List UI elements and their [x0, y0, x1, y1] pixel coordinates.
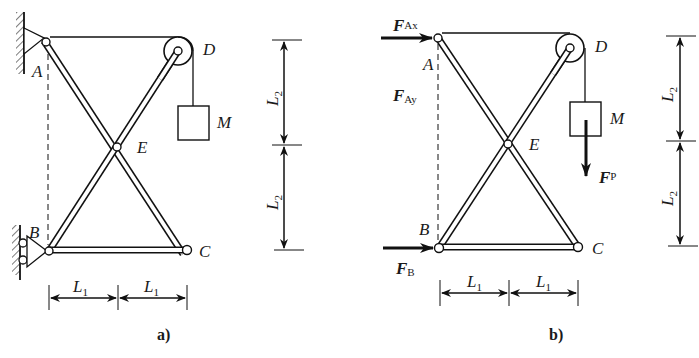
pin-c	[574, 243, 583, 252]
dim-l2-bottom: L2	[263, 195, 284, 211]
pin-support-a	[24, 28, 44, 54]
label-b: B	[419, 220, 430, 239]
pin-b	[435, 244, 444, 253]
dim-l1-left: L1	[72, 277, 88, 298]
label-d: D	[202, 40, 216, 59]
dim-l2-top: L2	[658, 87, 679, 103]
pin-e	[113, 143, 121, 151]
dim-l2-top: L2	[263, 91, 284, 107]
label-fax: FAx	[392, 16, 418, 35]
panel-a: A D E M B C L2 L2 L1 L1	[12, 12, 304, 344]
caption-a: a)	[157, 326, 170, 344]
roller-top	[19, 239, 27, 247]
label-m: M	[609, 109, 625, 128]
label-a: A	[31, 62, 43, 81]
dimension-l2: L2 L2	[263, 40, 304, 250]
dimension-l1: L1 L1	[49, 277, 187, 310]
dim-l2-bottom: L2	[658, 191, 679, 207]
dim-l1-right: L1	[535, 272, 551, 293]
mass-block	[178, 106, 209, 140]
label-d: D	[594, 37, 608, 56]
label-m: M	[216, 113, 232, 132]
label-c: C	[199, 242, 211, 261]
pin-b	[45, 247, 53, 255]
roller-bottom	[19, 256, 27, 264]
dim-l1-left: L1	[466, 272, 482, 293]
label-fp: FP	[598, 168, 616, 187]
label-b: B	[29, 223, 40, 242]
bar-bd	[439, 48, 570, 248]
pin-a	[434, 34, 442, 42]
mechanism-diagram: A D E M B C L2 L2 L1 L1	[0, 0, 699, 358]
wall-hatch-top	[16, 12, 24, 74]
pin-c	[183, 246, 192, 255]
label-e: E	[136, 138, 148, 157]
label-e: E	[528, 135, 540, 154]
label-fb: FB	[395, 259, 415, 278]
dimension-l1: L1 L1	[440, 272, 578, 306]
label-a: A	[422, 55, 434, 74]
label-c: C	[592, 239, 604, 258]
panel-b: FAx FAy FB FP A D E M B C L2 L2	[381, 16, 698, 344]
wall-hatch-bottom	[12, 225, 20, 275]
pin-d	[174, 47, 182, 55]
caption-b: b)	[549, 326, 563, 344]
dim-l1-right: L1	[143, 277, 159, 298]
pin-a	[42, 38, 50, 46]
dimension-l2: L2 L2	[658, 36, 698, 246]
pin-e	[504, 140, 512, 148]
label-fay: FAy	[392, 86, 417, 105]
pin-d	[566, 44, 574, 52]
